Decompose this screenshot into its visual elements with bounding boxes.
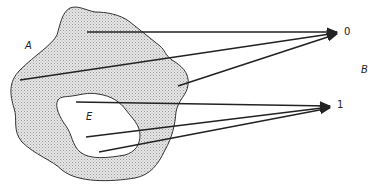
- label-target-0: 0: [344, 27, 350, 37]
- label-set-a: A: [25, 41, 32, 51]
- arrow-a3-to-0: [178, 34, 337, 86]
- set-mapping-diagram: [0, 0, 370, 186]
- label-set-b: B: [361, 65, 368, 75]
- label-set-e: E: [86, 112, 92, 122]
- label-target-1: 1: [337, 100, 343, 110]
